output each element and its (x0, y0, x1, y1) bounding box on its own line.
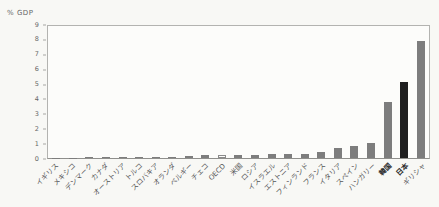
bar (284, 154, 292, 158)
bar-slot (396, 26, 413, 158)
bar-slot (164, 26, 181, 158)
bar (268, 154, 276, 158)
bar (168, 157, 176, 158)
y-tick-mark (43, 144, 46, 145)
y-tick-label: 4 (35, 96, 39, 103)
bar (367, 143, 375, 158)
y-tick-label: 1 (35, 141, 39, 148)
bar-slot (197, 26, 214, 158)
y-tick-mark (43, 84, 46, 85)
y-tick-label: 2 (35, 126, 39, 133)
bar (135, 157, 143, 158)
bar (301, 154, 309, 158)
bar-slot (412, 26, 429, 158)
bar-slot (114, 26, 131, 158)
y-tick-mark (43, 129, 46, 130)
plot-area (47, 25, 430, 159)
y-axis-unit-label: % GDP (7, 9, 33, 17)
bar (152, 157, 160, 158)
bar (185, 156, 193, 158)
y-tick-mark (43, 159, 46, 160)
y-tick-mark (43, 69, 46, 70)
bar-slot (296, 26, 313, 158)
y-tick-mark (43, 25, 46, 26)
bar-slot (65, 26, 82, 158)
bar-slot (181, 26, 198, 158)
bar-slot (247, 26, 264, 158)
bar-slot (98, 26, 115, 158)
bar-chart: % GDP 0123456789 イギリスメキシコデンマークカナダオーストリアト… (0, 0, 439, 207)
bar (119, 157, 127, 158)
bar-slot (48, 26, 65, 158)
x-axis-label: 韓国 (378, 163, 393, 178)
y-tick-mark (43, 114, 46, 115)
bar (218, 155, 226, 158)
bar-slot (330, 26, 347, 158)
bar-slot (214, 26, 231, 158)
y-tick-label: 9 (35, 22, 39, 29)
bar (251, 155, 259, 158)
bar-slot (263, 26, 280, 158)
y-tick-label: 3 (35, 111, 39, 118)
bar-slot (379, 26, 396, 158)
y-tick-mark (43, 54, 46, 55)
y-tick-label: 8 (35, 37, 39, 44)
y-tick-mark (43, 99, 46, 100)
y-axis: 0123456789 (0, 25, 46, 159)
y-tick-label: 0 (35, 156, 39, 163)
bar (234, 155, 242, 158)
bar (417, 41, 425, 158)
bar-slot (131, 26, 148, 158)
x-axis-label: チェコ (190, 163, 210, 183)
bar-slot (363, 26, 380, 158)
bar-slot (81, 26, 98, 158)
bar (400, 82, 408, 158)
bar (384, 102, 392, 158)
bar-slot (280, 26, 297, 158)
bar-slot (346, 26, 363, 158)
bars-container (48, 26, 429, 158)
x-axis-label: OECD (208, 163, 227, 182)
bar (350, 146, 358, 158)
y-tick-label: 6 (35, 66, 39, 73)
y-tick-label: 7 (35, 52, 39, 59)
bar (317, 152, 325, 158)
bar (102, 157, 110, 158)
bar-slot (147, 26, 164, 158)
y-tick-mark (43, 39, 46, 40)
bar-slot (230, 26, 247, 158)
bar (334, 148, 342, 158)
y-tick-label: 5 (35, 81, 39, 88)
bar-slot (313, 26, 330, 158)
bar (201, 155, 209, 158)
x-axis-labels: イギリスメキシコデンマークカナダオーストリアトルコスロバキアオランダベルギーチェ… (47, 160, 430, 206)
bar (85, 157, 93, 158)
